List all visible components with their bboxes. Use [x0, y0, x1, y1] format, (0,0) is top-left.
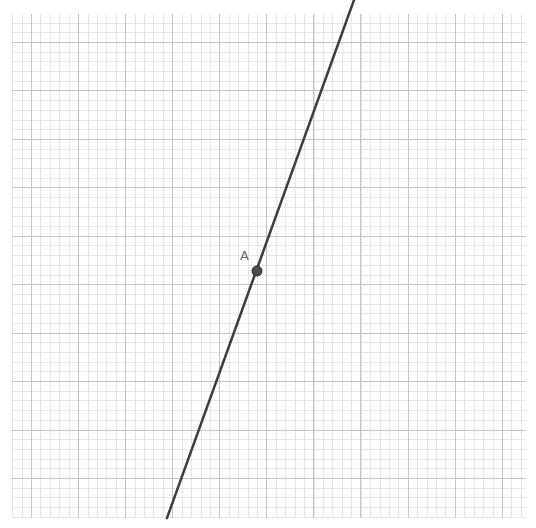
geometry-canvas[interactable] [0, 0, 536, 528]
point-a-label: A [240, 248, 249, 263]
point-a[interactable] [252, 266, 262, 276]
line-through-a[interactable] [167, 0, 354, 518]
minor-grid [12, 14, 526, 518]
